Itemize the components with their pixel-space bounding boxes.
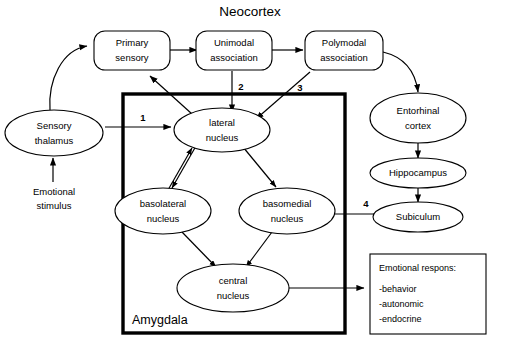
emotional-stimulus-text: Emotional stimulus <box>33 186 75 211</box>
node-unimodal-association: Unimodal association <box>196 31 272 70</box>
page-title: Neocortex <box>219 4 281 19</box>
unimodal-association-label-line1: Unimodal <box>214 37 254 48</box>
emotional-response-heading: Emotional respons: <box>379 263 456 273</box>
edge-lateral-to-basolateral <box>172 146 196 188</box>
emotional-response-item-1: -autonomic <box>379 299 424 309</box>
pathway-number-4: 4 <box>363 198 369 209</box>
amygdala-region-label: Amygdala <box>132 313 188 327</box>
edge-basolateral-to-lateral <box>168 148 192 190</box>
lateral-nucleus-label-line1: lateral <box>209 117 235 128</box>
node-basomedial-nucleus: basomedial nucleus <box>239 188 335 234</box>
node-sensory-thalamus: Sensory thalamus <box>5 110 103 156</box>
emotional-stimulus-line2: stimulus <box>37 200 72 211</box>
basolateral-nucleus-label-line1: basolateral <box>140 198 186 209</box>
pathway-number-3: 3 <box>297 82 302 93</box>
amygdala-circuit-diagram: Neocortex Amygdala 1 2 3 4 <box>0 0 506 351</box>
emotional-response-box: Emotional respons: -behavior -autonomic … <box>370 254 486 334</box>
pathway-number-2: 2 <box>238 81 243 92</box>
edge-polymodal-to-entorhinal <box>383 52 418 92</box>
primary-sensory-label-line1: Primary <box>116 37 149 48</box>
central-nucleus-label-line2: nucleus <box>217 290 250 301</box>
emotional-response-item-2: -endocrine <box>379 314 422 324</box>
lateral-nucleus-label-line2: nucleus <box>206 132 239 143</box>
node-hippocampus: Hippocampus <box>370 158 466 188</box>
basomedial-nucleus-shape <box>239 188 335 234</box>
primary-sensory-label-line2: sensory <box>115 52 149 63</box>
edge-lateral-to-basomedial <box>243 147 276 187</box>
subiculum-label: Subiculum <box>396 211 440 222</box>
unimodal-association-label-line2: association <box>210 52 258 63</box>
emotional-response-item-0: -behavior <box>379 284 417 294</box>
basolateral-nucleus-label-line2: nucleus <box>147 213 180 224</box>
node-polymodal-association: Polymodal association <box>305 31 383 70</box>
node-primary-sensory: Primary sensory <box>94 31 170 70</box>
central-nucleus-shape <box>177 264 289 312</box>
node-lateral-nucleus: lateral nucleus <box>174 108 270 152</box>
entorhinal-cortex-label-line2: cortex <box>405 120 431 131</box>
edge-basolateral-to-central <box>182 232 216 267</box>
entorhinal-cortex-label-line1: Entorhinal <box>397 105 440 116</box>
node-basolateral-nucleus: basolateral nucleus <box>115 188 211 234</box>
sensory-thalamus-label-line1: Sensory <box>37 120 72 131</box>
hippocampus-label: Hippocampus <box>389 167 447 178</box>
basolateral-nucleus-shape <box>115 188 211 234</box>
basomedial-nucleus-label-line1: basomedial <box>263 198 312 209</box>
node-entorhinal-cortex: Entorhinal cortex <box>370 93 466 143</box>
sensory-thalamus-shape <box>5 110 103 156</box>
entorhinal-cortex-shape <box>370 93 466 143</box>
polymodal-association-label-line1: Polymodal <box>322 37 366 48</box>
edge-thalamus-to-primary-sensory <box>50 46 87 110</box>
basomedial-nucleus-label-line2: nucleus <box>271 213 304 224</box>
central-nucleus-label-line1: central <box>219 275 248 286</box>
sensory-thalamus-label-line2: thalamus <box>35 135 74 146</box>
node-subiculum: Subiculum <box>373 202 463 232</box>
lateral-nucleus-shape <box>174 108 270 152</box>
emotional-stimulus-line1: Emotional <box>33 186 75 197</box>
diagram-canvas: Neocortex Amygdala 1 2 3 4 <box>0 0 506 351</box>
edge-basomedial-to-central <box>246 232 272 267</box>
polymodal-association-label-line2: association <box>320 52 368 63</box>
node-central-nucleus: central nucleus <box>177 264 289 312</box>
pathway-number-1: 1 <box>140 112 146 123</box>
